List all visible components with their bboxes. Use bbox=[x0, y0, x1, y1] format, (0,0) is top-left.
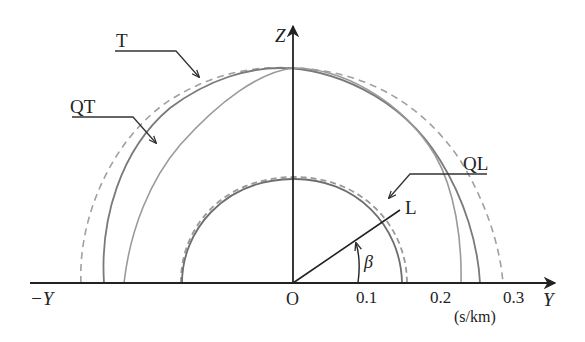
label-beta: β bbox=[363, 252, 373, 272]
tick-label-0.3: 0.3 bbox=[503, 288, 524, 307]
tick-label-0.1: 0.1 bbox=[356, 288, 377, 307]
outer-dashed-curve bbox=[81, 68, 503, 283]
ql-dashed-curve bbox=[181, 177, 407, 283]
unit-label: (s/km) bbox=[454, 308, 496, 326]
ql-leader-line bbox=[389, 174, 487, 198]
t-curve bbox=[104, 68, 480, 283]
label-l: L bbox=[405, 197, 417, 218]
tick-label-0.2: 0.2 bbox=[430, 288, 451, 307]
t-leader-line bbox=[115, 51, 199, 77]
label-origin: O bbox=[286, 289, 299, 309]
beta-angle-arc bbox=[356, 243, 359, 283]
label-z-axis: Z bbox=[275, 25, 286, 46]
l-direction-line bbox=[293, 210, 400, 283]
label-t: T bbox=[116, 30, 128, 51]
label-pos-y: Y bbox=[543, 289, 556, 310]
label-qt: QT bbox=[70, 96, 96, 117]
slowness-surface-diagram: T QT QL L β Z O −Y Y 0.1 0.2 0.3 (s/km) bbox=[0, 0, 585, 342]
label-ql: QL bbox=[463, 153, 488, 174]
label-neg-y: −Y bbox=[30, 288, 56, 309]
qt-leader-line bbox=[72, 117, 156, 143]
